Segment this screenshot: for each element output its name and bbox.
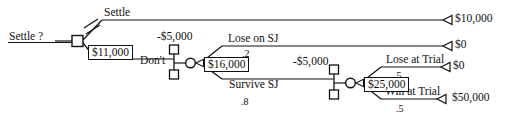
trial-stage-node-top[interactable] — [330, 65, 339, 74]
rollback-value-root: $11,000 — [88, 45, 133, 60]
prob-label-win-at-trial: .5 — [396, 104, 404, 114]
branch-label-lose-on-sj: Lose on SJ — [228, 33, 278, 45]
terminal-arrow-settle — [443, 16, 452, 25]
prob-label-survive-sj: .8 — [241, 97, 249, 107]
cost-label-trial-stage: -$5,000 — [293, 56, 328, 68]
trial-chance-node[interactable] — [346, 78, 356, 88]
payoff-lose-on-sj: $0 — [455, 39, 467, 51]
sj-stage-node-bottom[interactable] — [170, 70, 179, 79]
sj-chance-node[interactable] — [186, 58, 196, 68]
trial-stage-node-bottom[interactable] — [330, 90, 339, 99]
pruned-mark-slash-2 — [86, 25, 100, 34]
decision-tree-diagram: Settle ? Settle Don't -$5,000 -$5,000 Lo… — [0, 0, 513, 127]
branch-label-settle: Settle — [104, 7, 130, 19]
branch-label-lose-at-trial: Lose at Trial — [386, 54, 444, 66]
payoff-settle: $10,000 — [455, 13, 492, 25]
rollback-value-trial: $25,000 — [364, 77, 409, 92]
sj-rollback-arrow — [196, 59, 204, 66]
branch-label-dont: Don't — [140, 55, 165, 67]
branch-label-survive-sj: Survive SJ — [229, 79, 279, 91]
cost-label-sj-stage: -$5,000 — [157, 31, 192, 43]
root-question-label: Settle ? — [9, 31, 43, 43]
rollback-value-sj: $16,000 — [204, 57, 249, 72]
payoff-lose-at-trial: $0 — [453, 60, 465, 72]
terminal-arrow-lose-sj — [443, 42, 452, 51]
trial-rollback-arrow — [356, 79, 364, 86]
sj-stage-node-top[interactable] — [170, 45, 179, 54]
root-decision-node[interactable] — [72, 36, 83, 47]
payoff-win-at-trial: $50,000 — [452, 92, 489, 104]
